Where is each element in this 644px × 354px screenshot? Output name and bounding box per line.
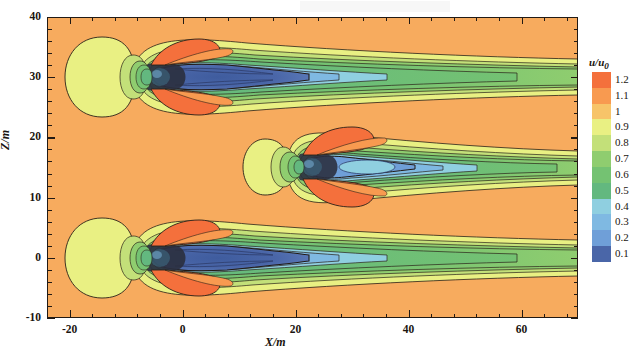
y-minor-tick <box>47 41 52 42</box>
y-minor-tick <box>47 113 52 114</box>
figure-root: -200204060403020100-10 X/m Z/m u/u0 1.21… <box>0 0 644 354</box>
axis-ticks <box>47 17 578 318</box>
colorbar-tick-label: 0.3 <box>615 215 629 227</box>
colorbar-swatch <box>592 214 611 230</box>
y-minor-tick-right <box>574 210 578 211</box>
colorbar-title: u/u0 <box>589 56 609 71</box>
x-minor-tick-top <box>567 17 568 21</box>
y-minor-tick-right <box>574 149 578 150</box>
y-major-tick <box>47 198 55 199</box>
y-tick-label: 10 <box>11 191 41 203</box>
x-minor-tick <box>476 314 477 319</box>
y-minor-tick-right <box>574 29 578 30</box>
y-major-tick-right <box>571 198 578 199</box>
y-minor-tick <box>47 125 52 126</box>
y-minor-tick <box>47 234 52 235</box>
colorbar-swatch <box>592 230 611 246</box>
x-minor-tick-top <box>386 17 387 21</box>
y-minor-tick-right <box>574 41 578 42</box>
x-minor-tick <box>160 314 161 319</box>
x-tick-label: 0 <box>163 323 203 335</box>
y-minor-tick-right <box>574 270 578 271</box>
x-axis-title: X/m <box>265 335 286 350</box>
x-minor-tick-top <box>318 17 319 21</box>
x-major-tick-top <box>183 17 184 24</box>
y-minor-tick-right <box>574 222 578 223</box>
x-minor-tick <box>544 314 545 319</box>
y-minor-tick-right <box>574 53 578 54</box>
x-minor-tick <box>341 314 342 319</box>
y-minor-tick <box>47 306 52 307</box>
y-minor-tick <box>47 186 52 187</box>
colorbar-swatch <box>592 72 611 88</box>
x-minor-tick-top <box>137 17 138 21</box>
y-minor-tick-right <box>574 294 578 295</box>
y-minor-tick <box>47 161 52 162</box>
x-minor-tick-top <box>228 17 229 21</box>
y-minor-tick <box>47 101 52 102</box>
x-minor-tick-top <box>499 17 500 21</box>
x-minor-tick-top <box>431 17 432 21</box>
y-minor-tick <box>47 174 52 175</box>
y-tick-label: 30 <box>11 70 41 82</box>
y-minor-tick <box>47 294 52 295</box>
x-minor-tick <box>228 314 229 319</box>
x-major-tick <box>183 310 184 318</box>
colorbar-swatch <box>592 246 611 262</box>
colorbar-tick-label: 0.1 <box>615 247 629 259</box>
y-tick-label: 20 <box>11 130 41 142</box>
colorbar-tick-label: 0.4 <box>615 200 629 212</box>
x-minor-tick-top <box>454 17 455 21</box>
x-minor-tick <box>363 314 364 319</box>
y-minor-tick-right <box>574 125 578 126</box>
x-major-tick-top <box>70 17 71 24</box>
colorbar-swatch <box>592 151 611 167</box>
x-minor-tick <box>386 314 387 319</box>
y-tick-label: 40 <box>11 10 41 22</box>
x-major-tick <box>70 310 71 318</box>
y-major-tick <box>47 77 55 78</box>
y-major-tick <box>47 17 55 18</box>
y-minor-tick-right <box>574 89 578 90</box>
y-major-tick-right <box>571 137 578 138</box>
x-minor-tick-top <box>92 17 93 21</box>
x-tick-label: 60 <box>502 323 542 335</box>
x-minor-tick-top <box>115 17 116 21</box>
x-major-tick <box>409 310 410 318</box>
y-tick-label: 0 <box>11 251 41 263</box>
x-minor-tick <box>318 314 319 319</box>
colorbar-swatch <box>592 88 611 104</box>
colorbar-swatch <box>592 199 611 215</box>
x-minor-tick-top <box>160 17 161 21</box>
y-minor-tick-right <box>574 65 578 66</box>
x-minor-tick-top <box>273 17 274 21</box>
x-minor-tick <box>499 314 500 319</box>
colorbar-tick-label: 0.5 <box>615 184 629 196</box>
y-tick-label: -10 <box>11 311 41 323</box>
x-major-tick <box>296 310 297 318</box>
y-axis-title: Z/m <box>0 130 13 150</box>
y-minor-tick <box>47 246 52 247</box>
y-minor-tick-right <box>574 113 578 114</box>
y-minor-tick-right <box>574 246 578 247</box>
y-major-tick-right <box>571 77 578 78</box>
x-tick-label: 20 <box>276 323 316 335</box>
x-major-tick-top <box>296 17 297 24</box>
colorbar-swatches <box>592 72 611 262</box>
y-minor-tick <box>47 89 52 90</box>
y-minor-tick <box>47 282 52 283</box>
y-minor-tick-right <box>574 234 578 235</box>
y-minor-tick <box>47 270 52 271</box>
y-minor-tick <box>47 149 52 150</box>
colorbar-tick-label: 0.6 <box>615 168 629 180</box>
y-minor-tick <box>47 222 52 223</box>
x-major-tick-top <box>409 17 410 24</box>
colorbar-tick-label: 1.2 <box>615 73 629 85</box>
colorbar-tick-label: 0.7 <box>615 152 629 164</box>
colorbar-swatch <box>592 104 611 120</box>
colorbar-tick-label: 0.2 <box>615 231 629 243</box>
x-minor-tick-top <box>341 17 342 21</box>
y-minor-tick-right <box>574 186 578 187</box>
x-minor-tick <box>250 314 251 319</box>
x-minor-tick <box>567 314 568 319</box>
